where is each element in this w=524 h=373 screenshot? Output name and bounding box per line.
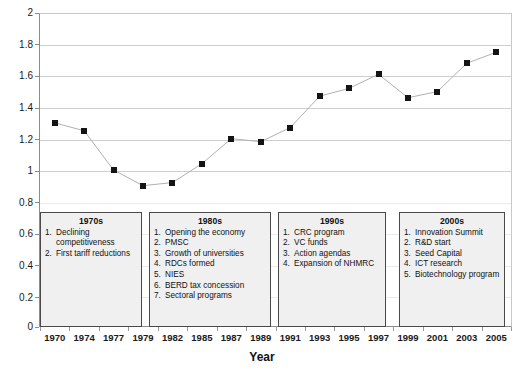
x-tick-mark: [364, 327, 365, 331]
x-tick-mark: [305, 327, 306, 331]
x-tick-mark: [69, 327, 70, 331]
data-point: [464, 60, 470, 66]
data-point: [346, 85, 352, 91]
data-point: [258, 139, 264, 145]
data-point: [376, 71, 382, 77]
series-polyline: [55, 52, 497, 185]
data-point: [287, 125, 293, 131]
x-tick-mark: [158, 327, 159, 331]
series-line: [0, 0, 524, 373]
x-tick-mark: [334, 327, 335, 331]
x-axis-title: Year: [0, 350, 524, 364]
x-tick-mark: [217, 327, 218, 331]
data-point: [228, 136, 234, 142]
data-point: [199, 161, 205, 167]
x-tick-mark: [246, 327, 247, 331]
x-tick-mark: [187, 327, 188, 331]
x-tick-label: 2005: [479, 332, 513, 343]
x-tick-mark: [128, 327, 129, 331]
data-point: [81, 128, 87, 134]
data-point: [169, 180, 175, 186]
data-point: [493, 49, 499, 55]
data-point: [140, 183, 146, 189]
x-tick-mark: [276, 327, 277, 331]
x-tick-mark: [452, 327, 453, 331]
x-tick-mark: [40, 327, 41, 331]
data-point: [111, 167, 117, 173]
x-tick-mark: [423, 327, 424, 331]
data-point: [434, 89, 440, 95]
line-chart: 2 1.8 1.6 1.4 1.2 1 0.8 0.6 0.4 0.2 0 19…: [0, 0, 524, 373]
data-point: [405, 95, 411, 101]
data-point: [317, 93, 323, 99]
data-point: [52, 120, 58, 126]
x-tick-mark: [511, 327, 512, 331]
x-tick-mark: [393, 327, 394, 331]
x-tick-mark: [99, 327, 100, 331]
x-tick-mark: [482, 327, 483, 331]
